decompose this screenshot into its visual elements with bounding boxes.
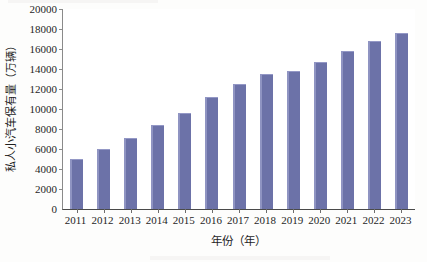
- x-axis-tick-label: 2019: [281, 214, 303, 227]
- x-axis-tick-label: 2013: [119, 214, 141, 227]
- y-axis-tick-mark: [59, 189, 63, 190]
- page-artifact-bottom: [150, 256, 330, 260]
- y-axis-tick-label: 18000: [30, 24, 58, 35]
- x-axis-tick-mark: [77, 209, 78, 213]
- x-axis-tick-label: 2021: [335, 214, 357, 227]
- bar-2015: [178, 113, 191, 210]
- x-axis-tick-mark: [347, 209, 348, 213]
- x-axis-tick-mark: [293, 209, 294, 213]
- y-axis-tick-labels: 0200040006000800010000120001400016000180…: [20, 0, 60, 212]
- bar-2021: [341, 51, 354, 210]
- x-axis-tick-mark: [374, 209, 375, 213]
- x-axis-tick-mark: [158, 209, 159, 213]
- y-axis-title-label: 私人小汽车保有量（万辆）: [2, 40, 18, 172]
- x-axis-title-label: 年份（年）: [211, 235, 266, 247]
- y-axis-tick-label: 20000: [30, 4, 58, 15]
- x-axis-tick-label: 2012: [92, 214, 114, 227]
- y-axis-tick-mark: [59, 169, 63, 170]
- y-axis-tick-mark: [59, 149, 63, 150]
- bar-2011: [70, 159, 83, 210]
- x-axis-tick-label: 2014: [146, 214, 168, 227]
- x-axis-tick-mark: [185, 209, 186, 213]
- x-axis-tick-mark: [239, 209, 240, 213]
- y-axis-tick-label: 10000: [30, 104, 58, 115]
- x-axis-tick-label: 2022: [362, 214, 384, 227]
- y-axis-tick-mark: [59, 89, 63, 90]
- bar-2014: [151, 125, 164, 209]
- x-axis-tick-mark: [401, 209, 402, 213]
- y-axis-tick-mark: [59, 69, 63, 70]
- y-axis-tick-mark: [59, 109, 63, 110]
- x-axis-tick-label: 2017: [227, 214, 249, 227]
- bar-2022: [368, 41, 381, 209]
- bar-2020: [314, 62, 327, 210]
- y-axis-tick-label: 16000: [30, 44, 58, 55]
- x-axis-tick-labels: 2011201220132014201520162017201820192020…: [62, 214, 414, 230]
- bar-2019: [287, 71, 300, 209]
- x-axis-tick-label: 2015: [173, 214, 195, 227]
- bar-chart-figure: 私人小汽车保有量（万辆） 020004000600080001000012000…: [0, 0, 427, 262]
- bar-2013: [124, 138, 137, 210]
- x-axis-tick-mark: [212, 209, 213, 213]
- bar-2017: [233, 84, 246, 210]
- y-axis-tick-label: 6000: [35, 144, 57, 155]
- y-axis-tick-mark: [59, 29, 63, 30]
- y-axis-tick-label: 0: [52, 204, 58, 215]
- y-axis-tick-mark: [59, 129, 63, 130]
- bar-2018: [260, 74, 273, 210]
- x-axis-tick-label: 2018: [254, 214, 276, 227]
- y-axis-tick-label: 12000: [30, 84, 58, 95]
- bar-2023: [395, 33, 408, 209]
- y-axis-tick-mark: [59, 9, 63, 10]
- x-axis-tick-mark: [320, 209, 321, 213]
- y-axis-tick-label: 4000: [35, 164, 57, 175]
- x-axis-tick-label: 2020: [308, 214, 330, 227]
- y-axis-tick-label: 14000: [30, 64, 58, 75]
- bar-2016: [205, 97, 218, 209]
- y-axis-tick-label: 2000: [35, 184, 57, 195]
- x-axis-title: 年份（年）: [62, 232, 414, 248]
- y-axis-tick-label: 8000: [35, 124, 57, 135]
- plot-area: [62, 9, 415, 210]
- x-axis-tick-label: 2023: [389, 214, 411, 227]
- x-axis-tick-label: 2016: [200, 214, 222, 227]
- x-axis-tick-label: 2011: [65, 214, 87, 227]
- y-axis-tick-mark: [59, 49, 63, 50]
- x-axis-tick-mark: [131, 209, 132, 213]
- x-axis-tick-mark: [266, 209, 267, 213]
- bar-2012: [97, 149, 110, 210]
- y-axis-title: 私人小汽车保有量（万辆）: [0, 0, 20, 212]
- x-axis-tick-mark: [104, 209, 105, 213]
